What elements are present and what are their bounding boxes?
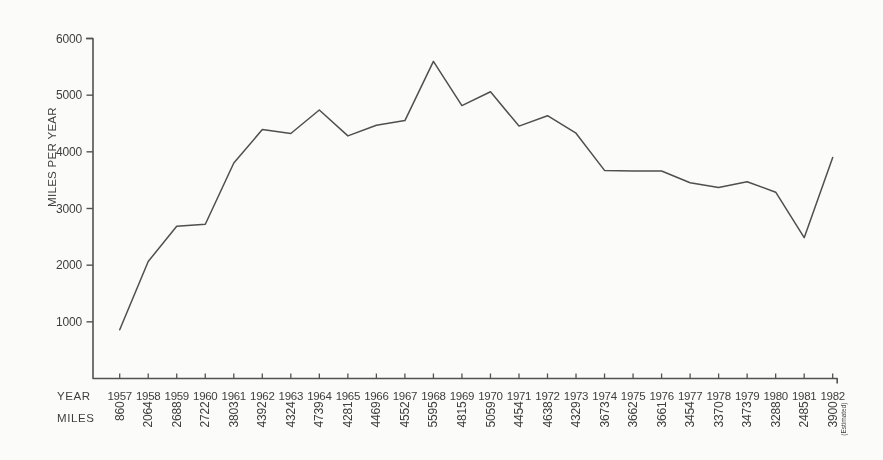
miles-value-label: 4281 xyxy=(341,401,355,427)
year-label: 1958 xyxy=(136,390,160,402)
year-label: 1959 xyxy=(165,390,189,402)
miles-value-label: 5059 xyxy=(484,401,498,427)
year-label: 1972 xyxy=(535,390,559,402)
miles-value-label: 4392 xyxy=(255,401,269,427)
year-label: 1973 xyxy=(564,390,588,402)
y-axis-tick-label: 1000 xyxy=(56,315,82,329)
miles-value-label: 4454 xyxy=(512,401,526,427)
year-label: 1975 xyxy=(621,390,645,402)
miles-value-label: 860 xyxy=(113,401,127,421)
miles-value-label: 2688 xyxy=(170,401,184,427)
year-label: 1968 xyxy=(421,390,445,402)
miles-value-label: 3370 xyxy=(712,401,726,427)
year-label: 1981 xyxy=(792,390,816,402)
miles-value-label: 4638 xyxy=(541,401,555,427)
year-label: 1979 xyxy=(735,390,759,402)
year-label: 1967 xyxy=(393,390,417,402)
year-label: 1960 xyxy=(193,390,217,402)
y-axis-tick-label: 5000 xyxy=(56,88,82,102)
year-label: 1977 xyxy=(678,390,702,402)
miles-value-label: 4324 xyxy=(284,401,298,427)
year-label: 1966 xyxy=(364,390,388,402)
y-axis-tick-label: 6000 xyxy=(56,32,82,46)
miles-value-label: 4329 xyxy=(569,401,583,427)
miles-value-label: 3662 xyxy=(626,401,640,427)
year-label: 1974 xyxy=(592,390,617,402)
year-label: 1965 xyxy=(336,390,360,402)
miles-value-label: 2485 xyxy=(797,401,811,427)
year-label: 1971 xyxy=(507,390,531,402)
y-axis-tick-label: 4000 xyxy=(56,145,82,159)
year-label: 1964 xyxy=(307,390,332,402)
year-label: 1962 xyxy=(250,390,274,402)
year-label: 1976 xyxy=(649,390,673,402)
year-label: 1982 xyxy=(821,390,845,402)
year-label: 1980 xyxy=(763,390,787,402)
y-axis-title: MILES PER YEAR xyxy=(46,107,58,207)
year-label: 1969 xyxy=(450,390,474,402)
miles-value-label: 4552 xyxy=(398,401,412,427)
miles-row-header: MILES xyxy=(57,412,95,424)
miles-value-label: 2722 xyxy=(198,401,212,427)
estimated-note: (Estimated) xyxy=(840,403,848,436)
year-label: 1963 xyxy=(279,390,303,402)
miles-value-label: 3661 xyxy=(655,401,669,427)
miles-per-year-line-chart: 100020003000400050006000MILES PER YEARYE… xyxy=(0,0,883,460)
y-axis-tick-label: 3000 xyxy=(56,202,82,216)
miles-value-label: 4815 xyxy=(455,401,469,427)
year-label: 1978 xyxy=(706,390,730,402)
year-row-header: YEAR xyxy=(57,390,91,402)
y-axis-tick-label: 2000 xyxy=(56,258,82,272)
miles-value-label: 3454 xyxy=(683,401,697,427)
miles-value-label: 3288 xyxy=(769,401,783,427)
year-label: 1970 xyxy=(478,390,502,402)
miles-value-label: 4469 xyxy=(369,401,383,427)
year-label: 1957 xyxy=(108,390,132,402)
miles-value-label: 2064 xyxy=(141,401,155,427)
miles-value-label: 4739 xyxy=(312,401,326,427)
miles-value-label: 3900 xyxy=(826,401,840,427)
miles-value-label: 3803 xyxy=(227,401,241,427)
miles-value-label: 3673 xyxy=(598,401,612,427)
miles-value-label: 3473 xyxy=(740,401,754,427)
year-label: 1961 xyxy=(222,390,246,402)
miles-value-label: 5595 xyxy=(426,401,440,427)
scanned-line-chart-page: 100020003000400050006000MILES PER YEARYE… xyxy=(0,0,883,460)
